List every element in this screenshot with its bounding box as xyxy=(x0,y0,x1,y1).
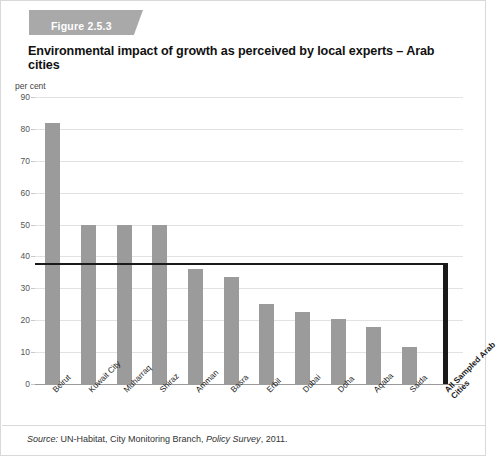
y-tick-label-40: 40 xyxy=(21,251,30,261)
source-year: , 2011. xyxy=(261,434,288,444)
figure-badge-label: Figure 2.5.3 xyxy=(29,21,112,32)
y-tick-label-90: 90 xyxy=(21,92,30,102)
source-label: Source: xyxy=(27,434,58,444)
y-tick-label-30: 30 xyxy=(21,283,30,293)
y-axis-unit-label: per cent xyxy=(15,81,46,91)
chart-plot-area: 0102030405060708090 xyxy=(35,97,463,384)
footer-divider xyxy=(2,425,486,426)
y-tick-label-10: 10 xyxy=(21,347,30,357)
y-tick-label-0: 0 xyxy=(25,379,30,389)
page-title: Environmental impact of growth as percei… xyxy=(28,44,468,72)
y-tick-label-20: 20 xyxy=(21,315,30,325)
source-survey-name: Policy Survey xyxy=(206,434,261,444)
y-tick-label-80: 80 xyxy=(21,124,30,134)
y-tick-label-70: 70 xyxy=(21,156,30,166)
figure-badge: Figure 2.5.3 xyxy=(29,10,143,35)
figure-badge-shape: Figure 2.5.3 xyxy=(29,10,143,35)
source-note: Source: UN-Habitat, City Monitoring Bran… xyxy=(27,434,287,444)
source-text: UN-Habitat, City Monitoring Branch, xyxy=(58,434,206,444)
y-tick-label-50: 50 xyxy=(21,220,30,230)
reference-line-layer xyxy=(35,97,463,384)
y-tick-label-60: 60 xyxy=(21,188,30,198)
average-reference-line xyxy=(35,263,448,265)
